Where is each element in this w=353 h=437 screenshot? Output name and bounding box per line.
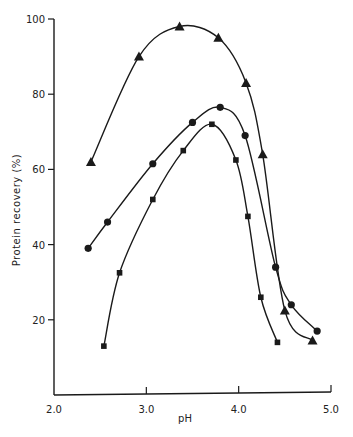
series-line-triangle (91, 26, 313, 341)
data-point-circle (314, 327, 321, 334)
data-point-square (180, 148, 186, 154)
y-tick-label: 100 (26, 14, 45, 25)
data-point-square (209, 121, 215, 127)
x-tick-label: 5.0 (323, 404, 339, 415)
data-point-square (117, 270, 123, 276)
data-point-square (258, 294, 264, 300)
data-point-circle (288, 301, 295, 308)
data-point-square (150, 197, 156, 203)
x-axis-line (54, 392, 331, 395)
x-tick-label: 3.0 (138, 404, 154, 415)
x-axis-label: pH (178, 413, 192, 424)
data-point-circle (189, 119, 196, 126)
data-point-circle (217, 104, 224, 111)
axes (54, 19, 331, 395)
data-point-circle (104, 218, 111, 225)
ticks: 2.03.04.05.020406080100 (26, 14, 339, 415)
data-point-triangle (258, 149, 268, 158)
series-group (85, 22, 321, 349)
x-tick-label: 4.0 (231, 404, 247, 415)
chart: 2.03.04.05.020406080100 pH Protein recov… (0, 0, 353, 437)
data-point-triangle (241, 78, 251, 87)
data-point-square (245, 214, 251, 220)
data-point-square (233, 157, 239, 163)
data-point-triangle (86, 157, 96, 166)
data-point-circle (272, 264, 279, 271)
data-point-circle (149, 160, 156, 167)
y-axis-label: Protein recovery (%) (11, 154, 22, 266)
x-tick-label: 2.0 (46, 404, 62, 415)
data-point-square (101, 343, 107, 349)
series-line-circle (88, 107, 317, 331)
data-point-triangle (308, 335, 318, 344)
y-tick-label: 20 (32, 315, 45, 326)
data-point-square (275, 340, 281, 346)
y-tick-label: 40 (32, 240, 45, 251)
data-point-circle (242, 132, 249, 139)
y-tick-label: 60 (32, 164, 45, 175)
y-tick-label: 80 (32, 89, 45, 100)
data-point-circle (85, 245, 92, 252)
data-point-triangle (134, 52, 144, 61)
data-point-triangle (213, 33, 223, 42)
